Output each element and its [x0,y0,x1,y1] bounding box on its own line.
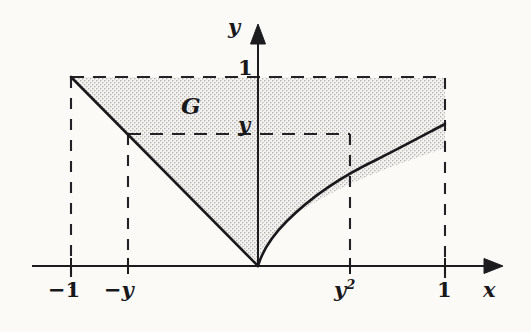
shaded-region-G [60,70,460,280]
y-axis-label: y [228,14,240,39]
x-axis-arrowhead [484,259,503,274]
y-tick-label-1: 1 [238,55,253,80]
x-tick-label-y-squared-base: y [334,277,346,302]
math-figure-region-G: y x 1 y G −1 −y y2 1 [0,0,531,332]
x-tick-label-neg-y: −y [104,277,134,302]
x-tick-label-1: 1 [437,277,452,302]
x-tick-label-neg-1: −1 [48,277,80,302]
x-tick-label-y-squared-exponent: 2 [346,277,355,292]
x-tick-label-y-squared: y2 [334,277,355,302]
y-tick-label-y: y [238,112,250,137]
y-axis-arrowhead [251,24,266,44]
region-label-G: G [181,92,201,119]
x-axis-label: x [483,277,496,302]
